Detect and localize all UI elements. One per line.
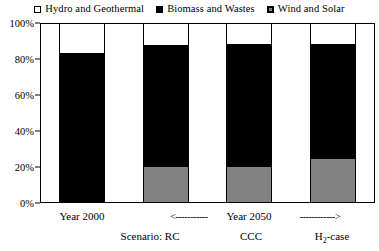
x-label-h2-case: H2-case — [315, 228, 350, 249]
bars-layer — [40, 23, 375, 203]
x-label-year-2050: Year 2050 — [226, 208, 271, 225]
filled-square-icon — [156, 6, 163, 13]
legend-item-biomass-and-wastes: Biomass and Wastes — [156, 4, 255, 15]
y-axis: 100% 80% 60% 40% 20% 0% — [0, 23, 40, 203]
legend-item-wind-and-solar: Wind and Solar — [267, 4, 345, 15]
bar-slot-year-2000 — [40, 23, 124, 203]
chart-legend: Hydro and Geothermal Biomass and Wastes … — [0, 1, 379, 17]
bar-slot-ccc — [208, 23, 292, 203]
bar-ccc[interactable] — [226, 23, 272, 203]
x-label-year-2000: Year 2000 — [59, 208, 104, 225]
open-square-icon — [34, 6, 41, 13]
bar-segment-biomass — [60, 53, 104, 202]
y-tick-label-20: 20% — [15, 162, 34, 173]
x-label-h2-case-tail: -case — [327, 230, 350, 242]
y-tick-label-100: 100% — [10, 18, 35, 29]
stacked-column-chart: Hydro and Geothermal Biomass and Wastes … — [0, 0, 379, 251]
legend-item-hydro-and-geothermal: Hydro and Geothermal — [34, 4, 144, 15]
x-label-ccc: CCC — [240, 228, 262, 245]
bar-segment-wind — [311, 158, 355, 202]
bar-h2-case[interactable] — [310, 23, 356, 203]
legend-label-biomass: Biomass and Wastes — [167, 4, 255, 15]
legend-label-hydro: Hydro and Geothermal — [45, 4, 144, 15]
bar-scenario-rc[interactable] — [143, 23, 189, 203]
bar-slot-scenario-rc — [124, 23, 208, 203]
x-label-arrow-left: <----------- — [170, 208, 207, 225]
bar-segment-wind — [144, 166, 188, 202]
bar-slot-h2-case — [291, 23, 375, 203]
x-axis-row-top: Year 2000 <----------- Year 2050 -------… — [0, 208, 379, 227]
x-axis-row-bottom: Scenario: RC CCC H2-case — [0, 228, 379, 247]
gray-square-icon — [267, 6, 274, 13]
x-label-h2-case-base: H — [315, 230, 323, 242]
bar-segment-wind — [227, 166, 271, 202]
x-label-scenario-rc: Scenario: RC — [121, 228, 180, 245]
y-tick-label-60: 60% — [15, 90, 34, 101]
x-axis-labels: Year 2000 <----------- Year 2050 -------… — [0, 206, 379, 251]
y-tick-label-40: 40% — [15, 126, 34, 137]
y-tick-label-80: 80% — [15, 54, 34, 65]
legend-label-wind: Wind and Solar — [278, 4, 345, 15]
bar-year-2000[interactable] — [59, 23, 105, 203]
x-label-arrow-right: ------------> — [300, 208, 340, 225]
